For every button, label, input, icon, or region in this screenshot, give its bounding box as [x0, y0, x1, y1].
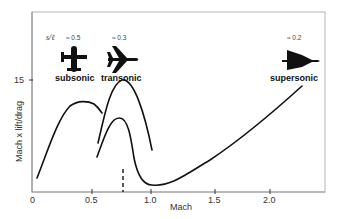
ratio-prefix: s/ℓ: [46, 33, 55, 42]
transonic-supersonic-curve: [97, 86, 302, 185]
y-axis-title: Mach x lift/drag: [14, 101, 24, 162]
subsonic-curve: [37, 102, 102, 178]
x-tick-label-2.0: 2.0: [263, 195, 276, 205]
subsonic-label: subsonic: [55, 73, 95, 83]
transonic-upper-curve: [98, 80, 152, 150]
ratio-transonic: ≈ 0.3: [112, 34, 127, 41]
jet-airliner-icon: [107, 46, 138, 73]
ratio-supersonic: ≈ 0.2: [287, 34, 302, 41]
y-tick-label-15: 15: [14, 75, 24, 85]
x-tick-label-0: 0: [30, 195, 35, 205]
x-tick-label-1.5: 1.5: [208, 195, 221, 205]
ratio-subsonic: ≈ 0.5: [66, 34, 81, 41]
chart: 15 0 0.5 1.0 1.5 2.0 Mach Mach x lift/dr…: [0, 0, 343, 219]
transonic-label: transonic: [101, 73, 142, 83]
x-tick-label-1.0: 1.0: [144, 195, 157, 205]
propeller-airliner-icon: [61, 46, 87, 72]
supersonic-label: supersonic: [270, 73, 318, 83]
x-tick-label-0.5: 0.5: [85, 195, 98, 205]
delta-wing-jet-icon: [282, 50, 320, 70]
x-axis-title: Mach: [170, 202, 192, 212]
